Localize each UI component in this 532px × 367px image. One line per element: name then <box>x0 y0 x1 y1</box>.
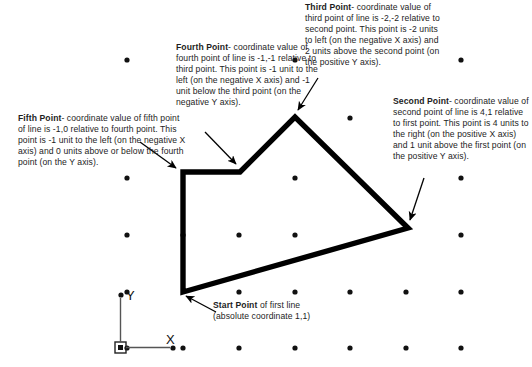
ucs-y-label: Y <box>126 288 135 303</box>
annotation-second-lead: Second Point <box>393 96 449 106</box>
leader-arrow-start <box>186 296 216 312</box>
annotation-start-body: of first line <box>257 300 300 310</box>
annotation-fourth-point: Fourth Point- coordinate value of fourth… <box>176 42 322 109</box>
annotation-third-lead: Third Point <box>305 2 351 12</box>
annotation-fifth-lead: Fifth Point <box>18 113 61 123</box>
annotation-start-point: Start Point of first line (absolute coor… <box>213 300 373 322</box>
leader-arrow-second <box>410 178 424 220</box>
annotation-fourth-lead: Fourth Point <box>176 42 228 52</box>
annotation-third-point: Third Point- coordinate value of third p… <box>305 2 440 69</box>
annotation-second-point: Second Point- coordinate value of second… <box>393 96 529 163</box>
diagram-canvas: Y X Fifth Point- coordinate value of fif… <box>0 0 532 367</box>
leader-arrow-fourth <box>205 132 236 164</box>
annotation-start-line2: (absolute coordinate 1,1) <box>213 311 310 321</box>
ucs-axis-icon: Y X <box>115 288 176 353</box>
ucs-x-label: X <box>166 332 175 347</box>
annotation-start-lead: Start Point <box>213 300 257 310</box>
annotation-fifth-point: Fifth Point- coordinate value of fifth p… <box>18 113 188 168</box>
